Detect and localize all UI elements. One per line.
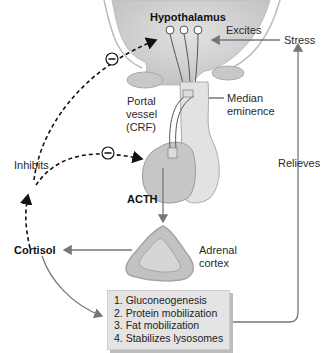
adrenal-cortex-label-2: cortex xyxy=(199,257,229,270)
median-eminence-label-2: eminence xyxy=(227,105,275,118)
adrenal-cortex-shape xyxy=(126,226,193,281)
minus-symbol-icon xyxy=(106,53,118,65)
portal-vessel-label-3: (CRF) xyxy=(126,121,156,134)
relieves-arrow xyxy=(232,44,298,322)
portal-vessel-label-1: Portal xyxy=(127,95,156,108)
cortisol-effects-arrow xyxy=(42,256,102,316)
cortisol-effects-box: 1. Gluconeogenesis 2. Protein mobilizati… xyxy=(107,290,230,350)
hypothalamus-label: Hypothalamus xyxy=(150,11,226,24)
cortisol-label: Cortisol xyxy=(14,244,56,257)
excites-label: Excites xyxy=(226,24,261,37)
effect-item: 1. Gluconeogenesis xyxy=(114,294,229,307)
inhibit-pituitary-dashed-arrow xyxy=(36,154,142,185)
stress-label: Stress xyxy=(284,34,315,47)
portal-vessel-label-2: vessel xyxy=(126,108,157,121)
acth-label: ACTH xyxy=(127,193,158,206)
effect-item: 2. Protein mobilization xyxy=(114,307,229,320)
median-eminence-label-1: Median xyxy=(227,92,263,105)
effect-item: 3. Fat mobilization xyxy=(114,319,229,332)
relieves-label: Relieves xyxy=(278,157,320,170)
minus-symbol-icon xyxy=(102,147,114,159)
adrenal-cortex-label-1: Adrenal xyxy=(199,244,237,257)
effect-item: 4. Stabilizes lysosomes xyxy=(114,332,229,345)
inhibits-label: Inhibits xyxy=(14,159,49,172)
cortisol-inhibits-dashed-arrow xyxy=(26,195,30,248)
